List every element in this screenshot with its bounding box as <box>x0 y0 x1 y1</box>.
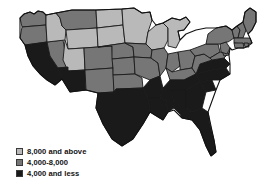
legend-item-medium: 4,000-8,000 <box>16 157 136 168</box>
legend-label-low: 4,000 and less <box>27 169 79 178</box>
legend-swatch-medium <box>16 159 23 166</box>
state-arkansas <box>143 76 163 98</box>
state-florida <box>180 108 216 156</box>
state-oregon <box>20 25 47 45</box>
legend-item-low: 4,000 and less <box>16 168 136 179</box>
state-new-mexico <box>85 68 114 93</box>
state-kansas <box>112 57 135 75</box>
map-legend: 8,000 and above 4,000-8,000 4,000 and le… <box>16 146 136 179</box>
legend-label-high: 8,000 and above <box>27 147 86 156</box>
legend-swatch-high <box>16 148 23 155</box>
state-connecticut <box>234 43 244 48</box>
state-texas <box>96 88 150 146</box>
legend-label-medium: 4,000-8,000 <box>27 158 68 167</box>
choropleth-map-figure: 8,000 and above 4,000-8,000 4,000 and le… <box>0 0 271 188</box>
legend-swatch-low <box>16 170 23 177</box>
state-colorado <box>84 46 113 70</box>
legend-item-high: 8,000 and above <box>16 146 136 157</box>
state-wyoming <box>66 28 98 49</box>
